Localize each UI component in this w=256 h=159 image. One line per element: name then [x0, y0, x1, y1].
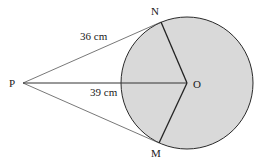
point-label-m: M — [151, 147, 161, 159]
length-label-pn: 36 cm — [80, 30, 108, 42]
point-label-n: N — [151, 5, 159, 17]
diagram-canvas: 36 cm 39 cm P O N M — [0, 0, 256, 159]
point-label-o: O — [193, 78, 201, 90]
point-label-p: P — [9, 77, 15, 89]
geometry-diagram: 36 cm 39 cm P O N M — [0, 0, 256, 159]
length-label-po: 39 cm — [90, 86, 118, 98]
